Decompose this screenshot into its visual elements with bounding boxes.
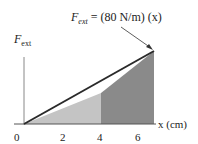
equation-label: Fext = (80 N/m) (x) (71, 11, 162, 28)
x-tick-2: 2 (60, 131, 66, 143)
x-tick-0: 0 (14, 131, 20, 143)
work-region-0-4 (24, 93, 101, 124)
work-region-4-6 (101, 51, 154, 124)
y-axis-label: Fext (14, 33, 31, 50)
x-axis-label: x (cm) (158, 118, 187, 130)
x-tick-4: 4 (97, 131, 103, 143)
x-tick-6: 6 (135, 131, 141, 143)
annotation-arrow (121, 27, 151, 48)
